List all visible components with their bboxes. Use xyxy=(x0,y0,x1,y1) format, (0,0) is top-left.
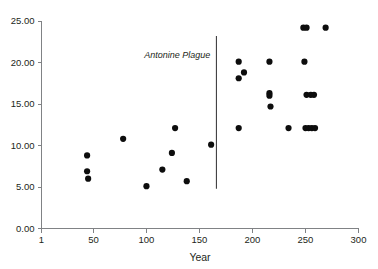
data-point xyxy=(241,69,247,75)
x-tick-label: 300 xyxy=(351,234,367,245)
data-point xyxy=(184,178,190,184)
x-tick-label: 150 xyxy=(192,234,208,245)
data-point xyxy=(172,125,178,131)
y-tick-label: 5.00 xyxy=(16,181,35,192)
data-point xyxy=(236,125,242,131)
data-point xyxy=(84,168,90,174)
x-tick-label: 100 xyxy=(139,234,155,245)
data-point xyxy=(208,142,214,148)
data-point xyxy=(266,93,272,99)
data-point xyxy=(143,183,149,189)
data-point xyxy=(266,59,272,65)
data-point xyxy=(311,92,317,98)
data-point xyxy=(236,59,242,65)
data-point xyxy=(120,136,126,142)
x-tick-label: 1 xyxy=(39,234,44,245)
data-point xyxy=(236,75,242,81)
y-tick-label: 15.00 xyxy=(11,98,35,109)
data-point xyxy=(301,59,307,65)
y-tick-label: 20.00 xyxy=(11,57,35,68)
data-point xyxy=(159,166,165,172)
data-point xyxy=(285,125,291,131)
y-tick-label: 10.00 xyxy=(11,140,35,151)
y-tick-label: 0.00 xyxy=(16,223,35,234)
antonine-plague-label: Antonine Plague xyxy=(143,50,210,60)
x-tick-label: 50 xyxy=(88,234,99,245)
scatter-chart: 0.005.0010.0015.0020.0025.00150100150200… xyxy=(0,0,378,269)
x-axis-title: Year xyxy=(189,251,211,263)
data-point xyxy=(84,152,90,158)
y-tick-label: 25.00 xyxy=(11,15,35,26)
data-point xyxy=(267,103,273,109)
x-tick-label: 250 xyxy=(298,234,314,245)
chart-canvas: 0.005.0010.0015.0020.0025.00150100150200… xyxy=(0,0,378,269)
data-point xyxy=(312,125,318,131)
data-point xyxy=(303,25,309,31)
x-tick-label: 200 xyxy=(245,234,261,245)
data-point xyxy=(169,150,175,156)
data-point xyxy=(85,176,91,182)
data-point xyxy=(323,25,329,31)
